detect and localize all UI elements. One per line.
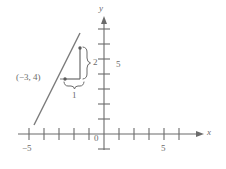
x-axis (18, 128, 204, 140)
x-tick-label-5: 5 (161, 144, 166, 153)
y-axis-label: y (99, 4, 103, 13)
plotted-points (63, 46, 81, 80)
rise-label: 2 (93, 58, 98, 67)
point-marker-minus2-6 (78, 46, 81, 49)
rise-brace (83, 47, 91, 79)
coordinate-plane-figure (0, 0, 226, 169)
x-axis-label: x (207, 128, 211, 137)
y-axis-arrow-icon (101, 16, 107, 24)
x-tick-label-minus5: −5 (22, 144, 32, 153)
y-axis (98, 16, 110, 150)
slope-triangle (65, 48, 80, 79)
x-axis-arrow-icon (196, 131, 204, 137)
origin-label: 0 (94, 134, 99, 143)
y-tick-label-5: 5 (116, 60, 121, 69)
run-brace (64, 82, 84, 89)
run-label: 1 (72, 91, 77, 100)
point-label: (−3, 4) (16, 73, 41, 82)
